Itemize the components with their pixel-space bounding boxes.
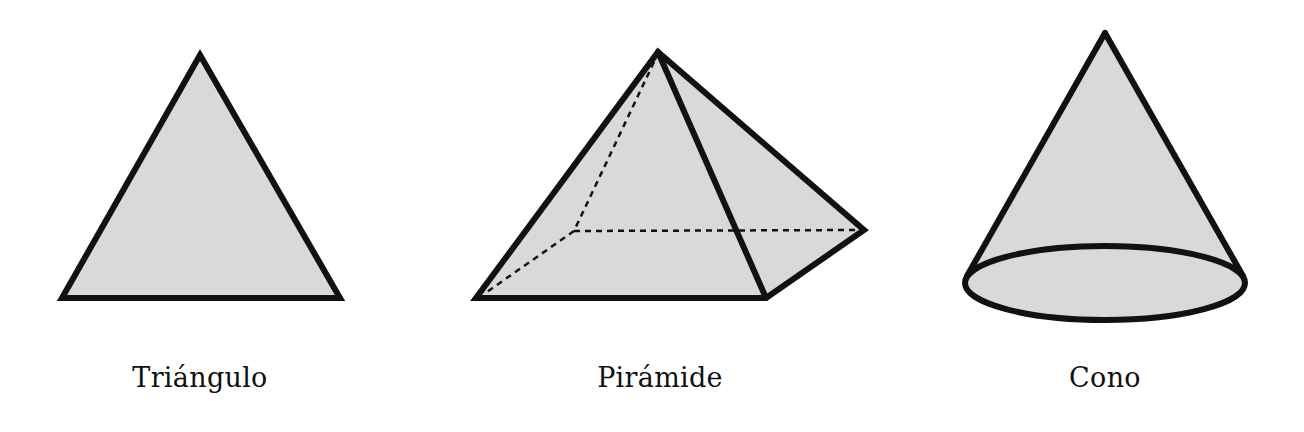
- pyramid-label: Pirámide: [597, 362, 723, 393]
- triangle-label: Triángulo: [132, 362, 267, 393]
- cone-label: Cono: [1069, 362, 1141, 393]
- triangle-outline: [62, 55, 340, 298]
- triangle-shape: [62, 55, 340, 298]
- pyramid-silhouette: [476, 52, 864, 298]
- cone-base-ellipse: [965, 246, 1245, 320]
- cone-shape: [965, 33, 1245, 320]
- pyramid-shape: [476, 52, 864, 298]
